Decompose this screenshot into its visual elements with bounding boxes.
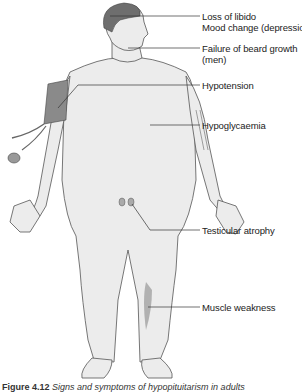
label-beard-growth: Failure of beard growth (men) xyxy=(202,43,297,65)
label-line: Hypotension xyxy=(202,80,254,91)
figure-caption-text: Signs and symptoms of hypopituitarism in… xyxy=(52,382,245,392)
label-hypotension: Hypotension xyxy=(202,80,254,91)
label-hypoglycaemia: Hypoglycaemia xyxy=(202,120,266,131)
label-line: Hypoglycaemia xyxy=(202,120,266,131)
bp-cuff xyxy=(8,80,68,163)
label-line: Testicular atrophy xyxy=(202,225,275,236)
label-line: Loss of libido xyxy=(202,11,302,22)
label-line: (men) xyxy=(202,54,297,65)
figure-caption: Figure 4.12 Signs and symptoms of hypopi… xyxy=(2,382,245,392)
label-muscle-weakness: Muscle weakness xyxy=(202,302,275,313)
label-loss-of-libido: Loss of libido Mood change (depression) xyxy=(202,11,302,33)
figure: Loss of libido Mood change (depression) … xyxy=(0,0,302,392)
label-line: Failure of beard growth xyxy=(202,43,297,54)
label-line: Muscle weakness xyxy=(202,302,275,313)
label-line: Mood change (depression) xyxy=(202,22,302,33)
label-testicular-atrophy: Testicular atrophy xyxy=(202,225,275,236)
figure-number: Figure 4.12 xyxy=(2,382,50,392)
